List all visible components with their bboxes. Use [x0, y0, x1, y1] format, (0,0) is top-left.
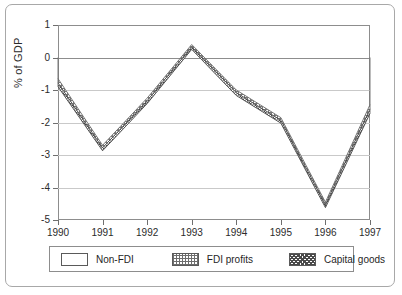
y-axis-title: % of GDP: [12, 37, 24, 88]
x-tick-label-1990: 1990: [38, 227, 78, 238]
x-tick-1994: [236, 220, 237, 225]
x-tick-label-1992: 1992: [127, 227, 167, 238]
line-capital-goods: [58, 49, 370, 207]
x-tick-1996: [325, 220, 326, 225]
y-tick-label--1: -1: [24, 85, 50, 95]
x-tick-label-1994: 1994: [216, 227, 256, 238]
y-tick-label-0: 0: [24, 53, 50, 63]
x-tick-1993: [192, 220, 193, 225]
series-bands: [58, 25, 370, 220]
x-tick-label-1991: 1991: [83, 227, 123, 238]
legend-swatch-non-fdi: [61, 253, 88, 266]
band-capital-goods: [58, 47, 370, 208]
y-tick-label--4: -4: [24, 183, 50, 193]
chart-legend: Non-FDI FDI profits Capital goods: [49, 246, 354, 272]
chart-figure: % of GDP 10-1-2-3-4-5 1990199119921: [0, 0, 402, 295]
legend-item-non-fdi: Non-FDI: [61, 247, 134, 271]
legend-swatch-capital-goods: [289, 253, 316, 266]
x-tick-1990: [58, 220, 59, 225]
x-tick-1995: [281, 220, 282, 225]
band-fdi-profits: [58, 45, 370, 205]
y-tick-label--3: -3: [24, 150, 50, 160]
legend-label-fdi-profits: FDI profits: [207, 254, 253, 265]
x-tick-1992: [147, 220, 148, 225]
legend-swatch-fdi-profits: [172, 253, 199, 266]
x-tick-label-1997: 1997: [350, 227, 390, 238]
x-tick-label-1993: 1993: [172, 227, 212, 238]
legend-label-non-fdi: Non-FDI: [96, 254, 134, 265]
legend-label-capital-goods: Capital goods: [324, 254, 385, 265]
x-tick-1991: [103, 220, 104, 225]
legend-item-fdi-profits: FDI profits: [172, 247, 253, 271]
y-tick-label--5: -5: [24, 215, 50, 225]
legend-item-capital-goods: Capital goods: [289, 247, 385, 271]
x-tick-label-1996: 1996: [305, 227, 345, 238]
y-tick-label-1: 1: [24, 20, 50, 30]
x-tick-label-1995: 1995: [261, 227, 301, 238]
y-tick-label--2: -2: [24, 118, 50, 128]
x-tick-1997: [370, 220, 371, 225]
plot-area: [58, 25, 370, 220]
